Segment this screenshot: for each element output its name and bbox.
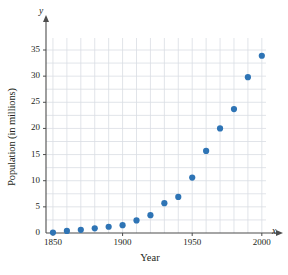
y-tick-label: 30 [18, 70, 40, 80]
x-axis-title: Year [120, 252, 180, 263]
x-tick-label: 1900 [106, 237, 140, 247]
y-tick-label: 5 [18, 201, 40, 211]
x-axis-letter: x [272, 226, 276, 236]
y-tick-label: 35 [18, 44, 40, 54]
gridlines [46, 38, 266, 233]
y-tick-label: 15 [18, 149, 40, 159]
tick-marks [43, 50, 262, 236]
x-tick-label: 2000 [245, 237, 279, 247]
plot-canvas [0, 0, 288, 275]
y-tick-label: 20 [18, 122, 40, 132]
y-tick-label: 10 [18, 175, 40, 185]
y-axis-letter: y [39, 6, 43, 16]
x-tick-label: 1950 [175, 237, 209, 247]
y-tick-label: 25 [18, 96, 40, 106]
scatter-plot-figure: y x Population (in millions) Year 051015… [0, 0, 288, 275]
x-tick-label: 1850 [36, 237, 70, 247]
data-points [50, 53, 265, 236]
y-tick-label: 0 [18, 227, 40, 237]
